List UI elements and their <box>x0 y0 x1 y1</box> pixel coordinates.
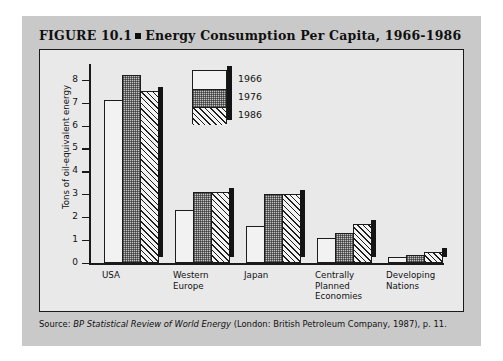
bar-group-developing-nations <box>388 66 445 263</box>
figure-title-text: Energy Consumption Per Capita, 1966-1986 <box>145 28 461 43</box>
y-tick-label-8: 8 <box>58 74 78 84</box>
y-tick-4 <box>82 171 90 172</box>
y-tick-0 <box>82 263 90 264</box>
bar-1976-western-europe <box>193 192 212 263</box>
y-tick-label-0: 0 <box>58 257 78 267</box>
y-tick-1 <box>82 240 90 241</box>
bar-1986-usa <box>140 91 159 263</box>
source-note: Source: BP Statistical Review of World E… <box>39 319 469 329</box>
chart-legend: 1966 1976 1986 <box>192 70 304 127</box>
bar-1966-japan <box>246 226 265 263</box>
bar-1966-centrally-planned-economies <box>317 238 336 263</box>
legend-swatch-1976 <box>193 89 226 107</box>
bar-1986-western-europe <box>211 192 230 263</box>
bar-1986-developing-nations <box>424 252 443 263</box>
category-label-centrally-planned-economies: CentrallyPlannedEconomies <box>315 270 362 302</box>
bar-shadow-top <box>158 87 163 92</box>
category-label-western-europe: WesternEurope <box>173 270 209 291</box>
legend-label-1976: 1976 <box>238 91 262 102</box>
bar-1976-developing-nations <box>406 255 425 263</box>
category-label-developing-nations: DevelopingNations <box>386 270 435 291</box>
source-title: BP Statistical Review of World Energy <box>73 319 231 329</box>
bar-1966-usa <box>104 100 123 263</box>
square-bullet-icon <box>135 33 141 39</box>
y-tick-3 <box>82 194 90 195</box>
bar-group-centrally-planned-economies <box>317 66 374 263</box>
figure-title: FIGURE 10.1Energy Consumption Per Capita… <box>39 28 461 43</box>
legend-label-1986: 1986 <box>238 109 262 120</box>
bar-shadow <box>300 190 305 257</box>
bar-1976-centrally-planned-economies <box>335 233 354 263</box>
bar-shadow-top <box>371 220 376 225</box>
bar-1966-western-europe <box>175 210 194 263</box>
y-tick-label-7: 7 <box>58 97 78 107</box>
bar-1986-centrally-planned-economies <box>353 224 372 263</box>
y-tick-6 <box>82 126 90 127</box>
bar-shadow-top <box>442 248 447 253</box>
y-tick-5 <box>82 148 90 149</box>
legend-label-1966: 1966 <box>238 73 262 84</box>
legend-swatch-1986 <box>193 107 226 125</box>
source-prefix: Source: <box>39 319 73 329</box>
source-rest: (London: British Petroleum Company, 1987… <box>231 319 447 329</box>
figure-number: FIGURE 10.1 <box>39 28 132 43</box>
y-tick-8 <box>82 80 90 81</box>
y-tick-label-5: 5 <box>58 142 78 152</box>
bar-group-usa <box>104 66 161 263</box>
y-tick-label-6: 6 <box>58 120 78 130</box>
legend-swatches <box>192 70 227 124</box>
bar-1986-japan <box>282 194 301 263</box>
x-axis-line <box>89 263 444 265</box>
bar-shadow-top <box>229 188 234 193</box>
y-tick-7 <box>82 103 90 104</box>
bar-1976-usa <box>122 75 141 263</box>
category-label-usa: USA <box>102 270 120 281</box>
bar-1966-developing-nations <box>388 257 407 263</box>
figure-card: FIGURE 10.1Energy Consumption Per Capita… <box>22 16 481 346</box>
legend-shadow <box>227 66 232 120</box>
y-tick-label-1: 1 <box>58 234 78 244</box>
y-tick-label-2: 2 <box>58 211 78 221</box>
bar-shadow <box>229 188 234 257</box>
bar-shadow <box>158 87 163 257</box>
bar-shadow-top <box>300 190 305 195</box>
y-tick-2 <box>82 217 90 218</box>
category-label-japan: Japan <box>244 270 268 281</box>
legend-swatch-1966 <box>193 71 226 89</box>
chart-plot-frame: Tons of oil-equivalent energy 012345678 … <box>39 49 464 312</box>
y-tick-label-4: 4 <box>58 165 78 175</box>
y-tick-label-3: 3 <box>58 188 78 198</box>
bar-shadow <box>371 220 376 257</box>
bar-1976-japan <box>264 194 283 263</box>
